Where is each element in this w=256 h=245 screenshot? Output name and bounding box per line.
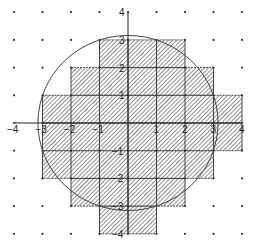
lattice-point <box>127 150 129 152</box>
x-tick-label: 1 <box>154 124 160 135</box>
y-tick-label: 3 <box>119 35 125 46</box>
lattice-point <box>98 233 100 235</box>
lattice-point <box>127 233 129 235</box>
x-tick-label: −1 <box>93 124 105 135</box>
lattice-point <box>184 67 186 69</box>
x-tick-label: −2 <box>64 124 76 135</box>
x-tick-label: 2 <box>182 124 188 135</box>
lattice-point <box>184 233 186 235</box>
lattice-point <box>127 122 129 124</box>
lattice-point <box>212 233 214 235</box>
lattice-point <box>212 177 214 179</box>
lattice-point <box>241 94 243 96</box>
lattice-point <box>127 11 129 13</box>
lattice-point <box>41 177 43 179</box>
y-tick-label: −3 <box>112 201 124 212</box>
lattice-point <box>184 39 186 41</box>
lattice-point <box>13 233 15 235</box>
lattice-point <box>13 11 15 13</box>
y-tick-label: 4 <box>119 7 125 18</box>
lattice-point <box>127 205 129 207</box>
lattice-point <box>212 39 214 41</box>
lattice-circle-diagram: −4−3−2−112344321−1−2−3−4 <box>0 0 256 245</box>
lattice-point <box>184 94 186 96</box>
lattice-point <box>241 177 243 179</box>
lattice-point <box>98 177 100 179</box>
lattice-point <box>155 233 157 235</box>
lattice-point <box>70 67 72 69</box>
lattice-point <box>241 67 243 69</box>
y-tick-label: 2 <box>119 63 125 74</box>
lattice-point <box>212 205 214 207</box>
lattice-point <box>70 11 72 13</box>
lattice-point <box>13 150 15 152</box>
lattice-point <box>241 150 243 152</box>
lattice-point <box>70 39 72 41</box>
lattice-point <box>127 177 129 179</box>
lattice-point <box>184 11 186 13</box>
lattice-point <box>41 39 43 41</box>
x-tick-label: 4 <box>239 124 245 135</box>
y-tick-label: −4 <box>112 229 124 240</box>
shaded-row-0 <box>100 40 186 68</box>
lattice-point <box>41 67 43 69</box>
lattice-point <box>184 150 186 152</box>
lattice-point <box>13 205 15 207</box>
lattice-point <box>127 67 129 69</box>
lattice-point <box>41 205 43 207</box>
shaded-region <box>43 40 243 234</box>
lattice-point <box>241 11 243 13</box>
lattice-point <box>70 150 72 152</box>
shaded-row-2 <box>43 95 243 123</box>
lattice-point <box>70 177 72 179</box>
lattice-point <box>155 11 157 13</box>
lattice-point <box>212 11 214 13</box>
lattice-point <box>155 177 157 179</box>
lattice-point <box>184 177 186 179</box>
lattice-point <box>98 150 100 152</box>
x-tick-label: 3 <box>211 124 217 135</box>
lattice-point <box>184 205 186 207</box>
lattice-point <box>98 11 100 13</box>
y-tick-label: −2 <box>112 173 124 184</box>
lattice-point <box>13 177 15 179</box>
x-tick-label: −3 <box>36 124 48 135</box>
lattice-point <box>155 94 157 96</box>
lattice-point <box>13 39 15 41</box>
lattice-point <box>155 150 157 152</box>
lattice-point <box>70 94 72 96</box>
lattice-point <box>241 205 243 207</box>
y-tick-label: −1 <box>112 146 124 157</box>
lattice-point <box>155 67 157 69</box>
y-tick-label: 1 <box>119 90 125 101</box>
lattice-point <box>212 67 214 69</box>
lattice-point <box>41 233 43 235</box>
lattice-point <box>241 39 243 41</box>
lattice-point <box>127 94 129 96</box>
lattice-point <box>13 94 15 96</box>
lattice-point <box>13 67 15 69</box>
lattice-point <box>70 233 72 235</box>
lattice-point <box>98 67 100 69</box>
lattice-point <box>241 233 243 235</box>
lattice-point <box>41 11 43 13</box>
x-tick-label: −4 <box>7 124 19 135</box>
lattice-point <box>127 39 129 41</box>
shaded-row-1 <box>71 68 214 96</box>
lattice-point <box>98 94 100 96</box>
lattice-point <box>70 205 72 207</box>
